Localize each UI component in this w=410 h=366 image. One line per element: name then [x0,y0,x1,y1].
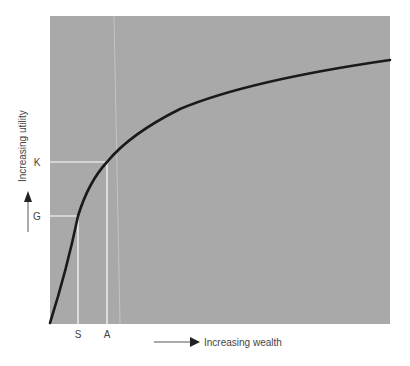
arrow-up-icon [24,191,32,202]
y-tick-k: K [34,157,41,168]
x-tick-s: S [75,329,82,340]
x-tick-a: A [104,329,111,340]
x-axis-label: Increasing wealth [204,337,282,348]
arrow-right-icon [190,337,200,347]
utility-of-wealth-chart: K G S A Increasing utility Increasing we… [0,0,410,366]
y-axis-label: Increasing utility [17,110,28,182]
y-tick-g: G [33,211,41,222]
